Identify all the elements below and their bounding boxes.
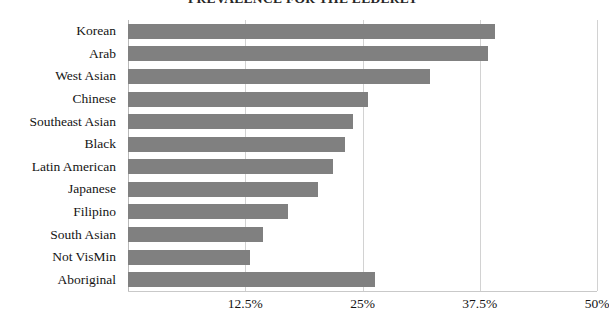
y-axis-label-southeast-asian: Southeast Asian <box>0 115 122 129</box>
y-axis-label-south-asian: South Asian <box>0 228 122 242</box>
bar <box>128 46 488 61</box>
y-axis-label-aboriginal: Aboriginal <box>0 273 122 287</box>
x-axis-tick-12-5: 12.5% <box>228 296 263 311</box>
x-axis-tick-25: 25% <box>350 296 375 311</box>
bar <box>128 137 345 152</box>
bar <box>128 114 353 129</box>
y-axis-label-filipino: Filipino <box>0 205 122 219</box>
y-axis-category-labels: Korean Arab West Asian Chinese Southeast… <box>0 20 122 291</box>
y-axis-label-latin-american: Latin American <box>0 160 122 174</box>
bar <box>128 69 430 84</box>
x-axis-line <box>128 291 597 292</box>
y-axis-label-chinese: Chinese <box>0 92 122 106</box>
bar <box>128 24 495 39</box>
bar <box>128 182 318 197</box>
chart-title: PREVALENCE FOR THE ELDERLY <box>0 0 606 7</box>
y-axis-label-west-asian: West Asian <box>0 69 122 83</box>
y-axis-label-japanese: Japanese <box>0 182 122 196</box>
bar <box>128 227 263 242</box>
bar <box>128 250 250 265</box>
bar-series <box>128 20 597 291</box>
x-axis-tick-37-5: 37.5% <box>462 296 497 311</box>
x-axis-tick-labels: 12.5% 25% 37.5% 50% <box>0 296 606 316</box>
x-axis-tick-50: 50% <box>585 296 609 311</box>
y-axis-label-not-vismin: Not VisMin <box>0 250 122 264</box>
bar <box>128 92 368 107</box>
bar <box>128 272 375 287</box>
bar <box>128 159 333 174</box>
y-axis-label-arab: Arab <box>0 47 122 61</box>
bar <box>128 204 288 219</box>
y-axis-label-black: Black <box>0 137 122 151</box>
gridline-50 <box>597 20 598 291</box>
y-axis-label-korean: Korean <box>0 24 122 38</box>
